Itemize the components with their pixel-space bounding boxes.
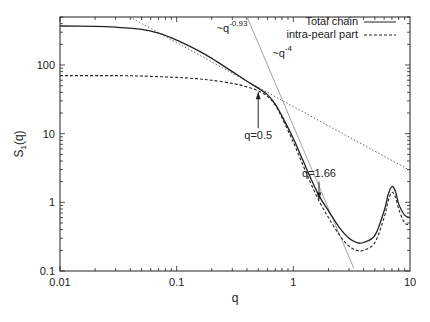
annotations: ~q-0.93~q-4q=0.5q=1.66 (217, 19, 336, 199)
axis-titles: q S1(q) (12, 130, 238, 305)
y-tick-label: 0.1 (40, 265, 55, 277)
legend: Total chain intra-pearl part (286, 15, 396, 40)
y-axis-ticks: 0.1110100 (37, 17, 410, 277)
x-tick-label: 0.1 (169, 276, 184, 288)
plot-frame (60, 17, 410, 271)
arrowhead-icon (256, 92, 261, 99)
plot-border (60, 17, 410, 271)
y-tick-label: 10 (43, 128, 55, 140)
x-tick-label: 10 (404, 276, 416, 288)
x-axis-ticks: 0.010.1110 (49, 17, 416, 288)
q-marker-label: q=0.5 (244, 129, 272, 141)
q-marker-label: q=1.66 (302, 167, 336, 179)
x-tick-label: 1 (290, 276, 296, 288)
series-line (60, 76, 410, 251)
power-law-label: ~q-4 (272, 44, 292, 59)
reference-line (123, 14, 410, 171)
x-tick-label: 0.01 (49, 276, 70, 288)
y-tick-label: 100 (37, 59, 55, 71)
power-law-label: ~q-0.93 (217, 19, 248, 34)
legend-label-total-chain: Total chain (305, 15, 358, 27)
chart: 0.010.1110 0.1110100 ~q-0.93~q-4q=0.5q=1… (0, 0, 430, 322)
series-line (60, 26, 410, 243)
y-tick-label: 1 (49, 196, 55, 208)
data-series (60, 26, 410, 251)
y-axis-title: S1(q) (12, 130, 28, 157)
x-axis-title: q (232, 291, 239, 305)
legend-label-intra-pearl: intra-pearl part (286, 28, 358, 40)
